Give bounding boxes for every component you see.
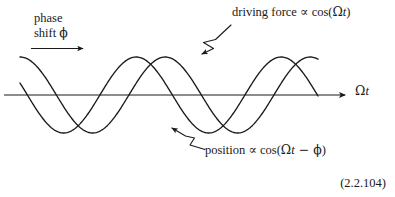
driving-force-label: driving force ∝ cos(Ωt) <box>232 5 350 20</box>
proportional-icon: ∝ <box>300 4 308 19</box>
phase-shift-label: phase shift ϕ <box>34 12 68 40</box>
driving-force-pointer <box>202 25 231 54</box>
omega-symbol: Ω <box>355 83 365 98</box>
physics-figure-phase-shift: phase shift ϕ driving force ∝ cos(Ωt) po… <box>0 0 395 197</box>
proportional-icon: ∝ <box>248 142 256 157</box>
t-symbol: t <box>365 84 368 98</box>
omega-symbol: Ω <box>332 4 342 19</box>
driving-force-paren: ) <box>346 5 350 19</box>
phase-shift-word: shift <box>34 26 59 40</box>
phi-symbol: ϕ <box>313 142 322 157</box>
position-pointer <box>172 128 205 150</box>
driving-force-cos: cos( <box>309 5 333 19</box>
position-text: position <box>205 143 248 157</box>
position-cos: cos( <box>257 143 281 157</box>
omega-symbol: Ω <box>281 142 291 157</box>
phi-symbol: ϕ <box>59 25 68 40</box>
position-paren: ) <box>322 143 326 157</box>
axis-label-omega-t: Ωt <box>355 84 369 99</box>
phase-shift-line1: phase <box>34 11 62 25</box>
position-label: position ∝ cos(Ωt − ϕ) <box>205 143 326 158</box>
phase-shift-line2: shift ϕ <box>34 26 68 41</box>
equation-number: (2.2.104) <box>340 176 386 191</box>
driving-force-text: driving force <box>232 5 300 19</box>
minus-symbol: − <box>295 142 313 157</box>
